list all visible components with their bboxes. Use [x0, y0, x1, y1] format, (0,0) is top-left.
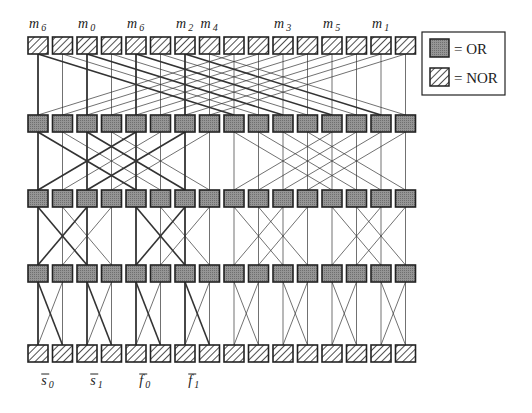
- nor-gate: [347, 37, 367, 54]
- nor-gate: [200, 345, 220, 362]
- or-gate: [224, 115, 244, 132]
- nor-gate: [151, 345, 171, 362]
- nor-gate: [151, 37, 171, 54]
- or-gate: [249, 265, 269, 282]
- or-gate: [371, 190, 391, 207]
- or-gate: [322, 190, 342, 207]
- nor-gate: [396, 37, 416, 54]
- nor-gate: [371, 37, 391, 54]
- input-label: m5: [323, 16, 340, 33]
- input-label: m4: [201, 16, 218, 33]
- or-gate: [102, 265, 122, 282]
- nor-gate: [175, 37, 195, 54]
- nor-gate: [249, 37, 269, 54]
- or-gate: [396, 190, 416, 207]
- or-gate: [175, 265, 195, 282]
- output-label: f0: [139, 373, 150, 390]
- or-gate: [102, 115, 122, 132]
- or-gate: [151, 115, 171, 132]
- nor-gate: [77, 37, 97, 54]
- input-label: m3: [274, 16, 291, 33]
- nor-gate: [347, 345, 367, 362]
- or-gate: [347, 265, 367, 282]
- nor-gate: [126, 37, 146, 54]
- nor-gate: [53, 37, 73, 54]
- legend-nor-swatch: [430, 68, 449, 86]
- or-gate: [126, 265, 146, 282]
- nor-gate: [28, 37, 48, 54]
- or-gate: [175, 190, 195, 207]
- input-label: m2: [176, 16, 193, 33]
- nor-gate: [53, 345, 73, 362]
- nor-gate: [273, 345, 293, 362]
- nor-gate: [175, 345, 195, 362]
- nor-gate: [126, 345, 146, 362]
- or-gate: [249, 115, 269, 132]
- legend-or-swatch: [430, 39, 449, 57]
- nor-gate: [298, 37, 318, 54]
- nor-gate: [224, 345, 244, 362]
- or-gate: [224, 265, 244, 282]
- legend-or-label: = OR: [454, 41, 487, 57]
- or-gate: [298, 115, 318, 132]
- output-label: s1: [90, 373, 102, 390]
- or-gate: [396, 265, 416, 282]
- or-gate: [77, 190, 97, 207]
- or-gate: [371, 265, 391, 282]
- or-gate: [53, 190, 73, 207]
- input-label: m6: [127, 16, 144, 33]
- logic-network-diagram: m6m0m6m2m4m3m5m1s0s1f0f1 = OR = NOR: [0, 0, 532, 413]
- nor-gate: [224, 37, 244, 54]
- input-label: m1: [372, 16, 389, 33]
- or-gate: [126, 190, 146, 207]
- nor-gate: [28, 345, 48, 362]
- input-label: m0: [78, 16, 95, 33]
- or-gate: [347, 190, 367, 207]
- or-gate: [151, 190, 171, 207]
- or-gate: [28, 265, 48, 282]
- nor-gate: [249, 345, 269, 362]
- nor-gate: [322, 37, 342, 54]
- or-gate: [151, 265, 171, 282]
- or-gate: [371, 115, 391, 132]
- nor-gate: [396, 345, 416, 362]
- nor-gate: [273, 37, 293, 54]
- input-label: m6: [29, 16, 46, 33]
- nor-gate: [371, 345, 391, 362]
- nor-gate: [200, 37, 220, 54]
- or-gate: [224, 190, 244, 207]
- legend: = OR = NOR: [422, 32, 505, 95]
- or-gate: [102, 190, 122, 207]
- legend-nor-label: = NOR: [454, 70, 498, 86]
- or-gate: [126, 115, 146, 132]
- or-gate: [347, 115, 367, 132]
- or-gate: [249, 190, 269, 207]
- or-gate: [298, 190, 318, 207]
- or-gate: [396, 115, 416, 132]
- nor-gate: [322, 345, 342, 362]
- or-gate: [322, 115, 342, 132]
- or-gate: [298, 265, 318, 282]
- or-gate: [28, 115, 48, 132]
- nor-gate: [298, 345, 318, 362]
- nor-gate: [102, 345, 122, 362]
- or-gate: [53, 265, 73, 282]
- or-gate: [200, 115, 220, 132]
- or-gate: [53, 115, 73, 132]
- or-gate: [28, 190, 48, 207]
- or-gate: [322, 265, 342, 282]
- or-gate: [175, 115, 195, 132]
- nor-gate: [77, 345, 97, 362]
- or-gate: [77, 115, 97, 132]
- or-gate: [77, 265, 97, 282]
- or-gate: [273, 265, 293, 282]
- or-gate: [273, 190, 293, 207]
- output-label: s0: [41, 373, 53, 390]
- output-label: f1: [188, 373, 199, 390]
- nor-gate: [102, 37, 122, 54]
- or-gate: [273, 115, 293, 132]
- or-gate: [200, 190, 220, 207]
- or-gate: [200, 265, 220, 282]
